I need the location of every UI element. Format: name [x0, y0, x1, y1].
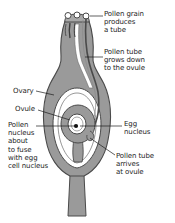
label-egg-nucleus: Egg nucleus [124, 120, 150, 136]
carpel-group [44, 12, 111, 216]
label-pollen-tube-grows: Pollen tube grows down to the ovule [104, 48, 145, 73]
pollen-grain-icon [65, 13, 71, 19]
pollen-grain-icon [83, 13, 89, 19]
pollen-tube-fertilisation-diagram: Pollen grain produces a tube Pollen tube… [0, 0, 175, 223]
label-pollen-grain: Pollen grain produces a tube [104, 10, 144, 35]
label-ovule: Ovule [15, 105, 35, 113]
pollen-grain-icon [74, 12, 80, 18]
stalk-shape [68, 175, 86, 216]
label-pollen-nucleus: Pollen nucleus about to fuse with egg ce… [8, 121, 48, 170]
style-striation-1 [69, 23, 70, 38]
label-pollen-tube-arrives: Pollen tube arrives at ovule [116, 152, 154, 177]
egg-nucleus-dot [74, 124, 78, 128]
embryo-sac-inner-ring [71, 117, 83, 131]
label-ovary: Ovary [13, 87, 33, 95]
